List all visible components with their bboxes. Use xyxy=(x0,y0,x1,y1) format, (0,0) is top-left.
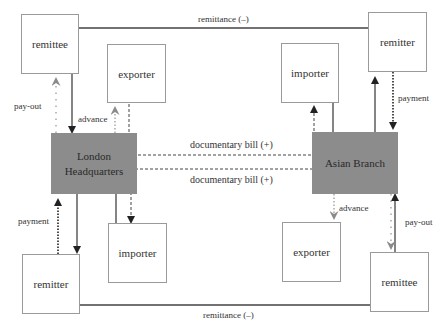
london-label-line2: Headquarters xyxy=(65,164,124,179)
box-label: importer xyxy=(291,67,329,79)
box-label: remitter xyxy=(34,278,69,290)
remittee-box-top-left: remittee xyxy=(21,14,79,74)
payment-left-label: payment xyxy=(18,216,49,226)
advance-right-label: advance xyxy=(339,203,368,213)
london-label-line1: London xyxy=(65,149,124,164)
box-label: importer xyxy=(119,247,157,259)
remittee-box-bottom-right: remittee xyxy=(370,252,429,312)
box-label: remittee xyxy=(32,38,68,50)
box-label: exporter xyxy=(293,246,330,258)
importer-box-top-right: importer xyxy=(281,43,339,103)
box-label: exporter xyxy=(118,68,155,80)
remittance-top-label: remittance (–) xyxy=(198,14,249,24)
doc-bill-top-label: documentary bill (+) xyxy=(190,139,273,150)
exporter-box-bottom-right: exporter xyxy=(282,222,341,282)
remitter-box-bottom-left: remitter xyxy=(22,254,80,314)
importer-box-bottom-left: importer xyxy=(108,223,167,283)
payout-right-label: pay-out xyxy=(405,217,433,227)
advance-left-label: advance xyxy=(78,114,107,124)
asian-branch-label: Asian Branch xyxy=(325,156,385,171)
london-headquarters-node: London Headquarters xyxy=(51,133,137,194)
exporter-box-top-left: exporter xyxy=(107,44,166,103)
payout-left-label: pay-out xyxy=(14,101,42,111)
box-label: remitter xyxy=(380,36,415,48)
box-label: remittee xyxy=(381,276,417,288)
doc-bill-bottom-label: documentary bill (+) xyxy=(190,174,273,185)
asian-branch-node: Asian Branch xyxy=(312,132,398,194)
remitter-box-top-right: remitter xyxy=(368,12,427,72)
payment-right-label: payment xyxy=(398,93,429,103)
remittance-bottom-label: remittance (–) xyxy=(203,310,254,320)
